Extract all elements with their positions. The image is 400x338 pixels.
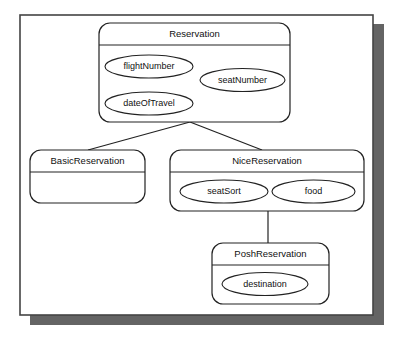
attribute-food[interactable]: food bbox=[272, 180, 355, 203]
attribute-destination[interactable]: destination bbox=[222, 273, 308, 296]
attribute-dateoftravel-label: dateOfTravel bbox=[123, 98, 175, 108]
attribute-seatnumber[interactable]: seatNumber bbox=[200, 69, 285, 92]
class-box-nicereservation[interactable]: NiceReservation seatSort food bbox=[170, 150, 364, 211]
attribute-food-label: food bbox=[305, 186, 323, 196]
attribute-seatnumber-label: seatNumber bbox=[218, 75, 267, 85]
class-box-poshreservation[interactable]: PoshReservation destination bbox=[212, 243, 329, 304]
attribute-seatsort[interactable]: seatSort bbox=[180, 180, 268, 203]
attribute-flightnumber-label: flightNumber bbox=[123, 61, 174, 71]
class-name-reservation: Reservation bbox=[169, 28, 220, 39]
attribute-destination-label: destination bbox=[243, 279, 287, 289]
attribute-dateoftravel[interactable]: dateOfTravel bbox=[105, 92, 193, 115]
diagram-canvas: Reservation flightNumber seatNumber date… bbox=[0, 0, 400, 338]
uml-class-diagram: Reservation flightNumber seatNumber date… bbox=[0, 0, 400, 338]
attribute-flightnumber[interactable]: flightNumber bbox=[105, 55, 193, 78]
attribute-seatsort-label: seatSort bbox=[207, 186, 241, 196]
class-box-reservation[interactable]: Reservation flightNumber seatNumber date… bbox=[99, 23, 290, 122]
class-name-basicreservation: BasicReservation bbox=[51, 155, 125, 166]
class-name-poshreservation: PoshReservation bbox=[234, 248, 306, 259]
class-box-basicreservation[interactable]: BasicReservation bbox=[30, 150, 145, 203]
class-name-nicereservation: NiceReservation bbox=[232, 155, 302, 166]
